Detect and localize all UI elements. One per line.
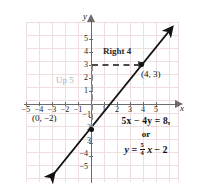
equation-standard-form: 5x − 4y = 8, <box>100 116 192 126</box>
equation-connector: or <box>100 129 192 139</box>
point-marker-y-intercept <box>89 127 94 132</box>
equation-block: 5x − 4y = 8, or y = 5 4 x − 2 <box>100 116 192 157</box>
annotation-right-4: Right 4 <box>103 46 131 56</box>
rise-dashed-segment <box>91 65 93 130</box>
equation-lhs: y = <box>124 144 137 155</box>
run-dashed-arrow <box>92 64 140 66</box>
equation-constant: − 2 <box>154 144 167 155</box>
point-label-4-3: (4, 3) <box>141 69 161 79</box>
point-label-y-intercept: (0, −2) <box>32 113 57 123</box>
plotted-line <box>0 0 199 190</box>
slope-denominator: 4 <box>140 150 145 157</box>
slope-fraction: 5 4 <box>140 142 145 157</box>
equation-slope-intercept-form: y = 5 4 x − 2 <box>100 142 192 157</box>
annotation-up-5: Up 5 <box>56 75 74 85</box>
point-marker-4-3 <box>139 62 144 67</box>
equation-variable: x <box>147 144 152 155</box>
graph-figure: x y −5 −4 −3 −2 −1 1 2 3 4 5 5 4 3 2 1 −… <box>0 0 199 190</box>
